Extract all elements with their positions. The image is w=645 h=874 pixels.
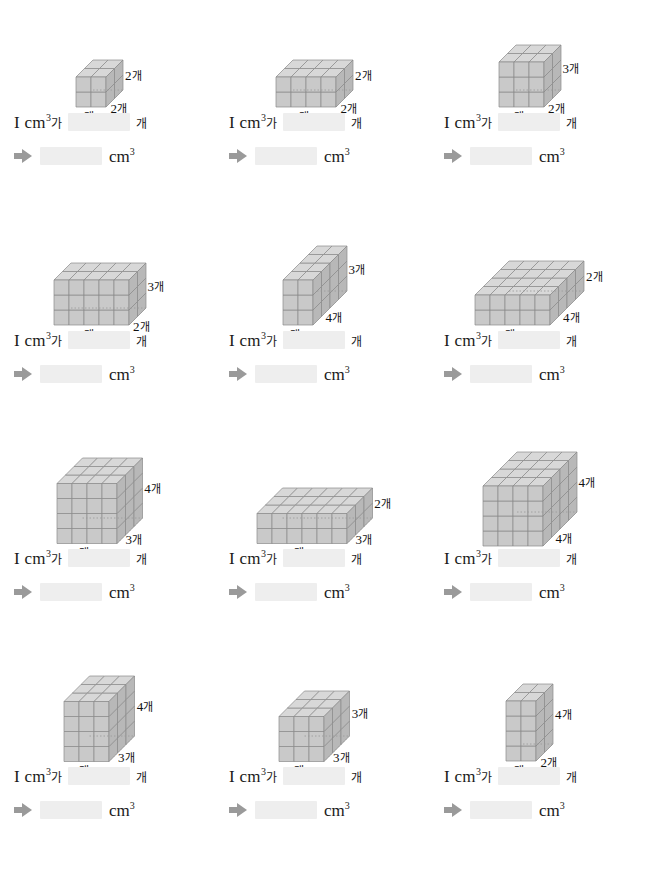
cube-count-input[interactable] [283, 113, 345, 131]
volume-unit-label: cm3 [539, 800, 565, 821]
volume-input[interactable] [40, 583, 102, 601]
cube-count-line: I cm3가개 [229, 548, 362, 569]
counter-gae: 개 [566, 332, 577, 349]
dim-label-height: 2개 [586, 268, 603, 285]
cube-count-input[interactable] [68, 113, 130, 131]
cube-count-input[interactable] [283, 331, 345, 349]
problem-cell: 2개2개4개I cm3가개cm3 [430, 654, 645, 872]
solid-figure: 4개3개4개 [0, 448, 215, 548]
particle-ga: 가 [51, 114, 62, 131]
counter-gae: 개 [136, 114, 147, 131]
unit-cube-label: I cm3 [444, 766, 481, 787]
volume-unit-label: cm3 [109, 146, 135, 167]
dim-label-height: 3개 [349, 261, 366, 278]
volume-line: cm3 [14, 364, 135, 385]
dim-label-height: 3개 [563, 60, 580, 77]
solid-figure: 2개2개4개 [430, 666, 645, 766]
cube-count-line: I cm3가개 [444, 330, 577, 351]
volume-input[interactable] [40, 801, 102, 819]
volume-input[interactable] [40, 147, 102, 165]
particle-ga: 가 [266, 550, 277, 567]
arrow-right-icon [444, 803, 462, 817]
dim-label-depth: 3개 [118, 749, 135, 766]
volume-input[interactable] [255, 583, 317, 601]
counter-gae: 개 [136, 550, 147, 567]
cube-count-input[interactable] [68, 549, 130, 567]
volume-input[interactable] [255, 365, 317, 383]
volume-line: cm3 [229, 800, 350, 821]
unit-cube-label: I cm3 [229, 112, 266, 133]
arrow-right-icon [14, 367, 32, 381]
volume-unit-label: cm3 [109, 800, 135, 821]
solid-figure: 3개3개3개 [215, 666, 430, 766]
cube-count-line: I cm3가개 [14, 112, 147, 133]
particle-ga: 가 [266, 768, 277, 785]
volume-unit-label: cm3 [324, 582, 350, 603]
particle-ga: 가 [51, 550, 62, 567]
unit-cube-label: I cm3 [14, 548, 51, 569]
cube-count-line: I cm3가개 [444, 766, 577, 787]
volume-input[interactable] [470, 365, 532, 383]
unit-cube-label: I cm3 [14, 766, 51, 787]
unit-cube-label: I cm3 [444, 548, 481, 569]
cube-count-input[interactable] [498, 113, 560, 131]
dim-label-depth: 4개 [563, 309, 580, 326]
arrow-right-icon [229, 367, 247, 381]
problem-cell: 3개3개4개I cm3가개cm3 [0, 654, 215, 872]
volume-unit-label: cm3 [539, 582, 565, 603]
counter-gae: 개 [566, 550, 577, 567]
problem-cell: 5개2개3개I cm3가개cm3 [0, 218, 215, 436]
problem-cell: 4개2개2개I cm3가개cm3 [215, 0, 430, 218]
arrow-right-icon [14, 149, 32, 163]
particle-ga: 가 [481, 768, 492, 785]
cube-count-input[interactable] [498, 331, 560, 349]
volume-input[interactable] [470, 801, 532, 819]
arrow-right-icon [229, 149, 247, 163]
particle-ga: 가 [481, 114, 492, 131]
counter-gae: 개 [351, 332, 362, 349]
solid-figure: 6개3개2개 [215, 448, 430, 548]
unit-cube-label: I cm3 [444, 330, 481, 351]
volume-input[interactable] [470, 147, 532, 165]
problem-cell: 4개4개4개I cm3가개cm3 [430, 436, 645, 654]
volume-input[interactable] [255, 147, 317, 165]
cube-count-input[interactable] [498, 549, 560, 567]
volume-input[interactable] [255, 801, 317, 819]
problem-cell: 2개4개3개I cm3가개cm3 [215, 218, 430, 436]
dim-label-height: 4개 [555, 706, 572, 723]
cube-count-input[interactable] [498, 767, 560, 785]
cube-count-line: I cm3가개 [14, 766, 147, 787]
cube-count-input[interactable] [68, 767, 130, 785]
cube-count-line: I cm3가개 [229, 112, 362, 133]
unit-cube-label: I cm3 [229, 330, 266, 351]
cube-count-input[interactable] [68, 331, 130, 349]
problem-cell: 2개2개2개I cm3가개cm3 [0, 0, 215, 218]
volume-unit-label: cm3 [539, 146, 565, 167]
solid-figure: 2개4개3개 [215, 230, 430, 330]
counter-gae: 개 [136, 768, 147, 785]
particle-ga: 가 [51, 768, 62, 785]
dim-label-depth: 3개 [126, 531, 143, 548]
cube-count-line: I cm3가개 [444, 112, 577, 133]
volume-unit-label: cm3 [324, 800, 350, 821]
particle-ga: 가 [266, 114, 277, 131]
arrow-right-icon [14, 585, 32, 599]
arrow-right-icon [444, 149, 462, 163]
problem-cell: 5개4개2개I cm3가개cm3 [430, 218, 645, 436]
problem-cell: 6개3개2개I cm3가개cm3 [215, 436, 430, 654]
dim-label-depth: 4개 [556, 530, 573, 547]
arrow-right-icon [444, 585, 462, 599]
volume-input[interactable] [40, 365, 102, 383]
worksheet-page: 2개2개2개I cm3가개cm34개2개2개I cm3가개cm33개2개3개I … [0, 0, 645, 874]
arrow-right-icon [229, 803, 247, 817]
volume-unit-label: cm3 [324, 364, 350, 385]
dim-label-height: 2개 [374, 495, 391, 512]
cube-count-input[interactable] [283, 549, 345, 567]
cube-count-line: I cm3가개 [444, 548, 577, 569]
volume-input[interactable] [470, 583, 532, 601]
problem-cell: 3개2개3개I cm3가개cm3 [430, 0, 645, 218]
volume-line: cm3 [14, 146, 135, 167]
cube-count-input[interactable] [283, 767, 345, 785]
problem-grid: 2개2개2개I cm3가개cm34개2개2개I cm3가개cm33개2개3개I … [0, 0, 645, 872]
volume-unit-label: cm3 [324, 146, 350, 167]
